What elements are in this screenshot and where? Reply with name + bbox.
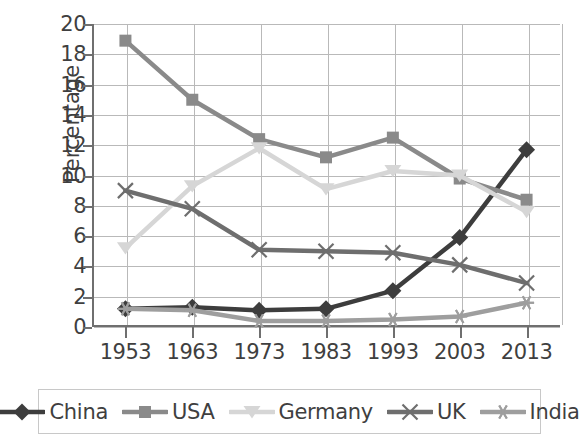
gridline-horizontal — [94, 266, 560, 267]
x-axis-tick-label: 1953 — [100, 340, 151, 364]
y-axis-tick-mark — [83, 54, 92, 56]
diamond-marker-icon — [0, 402, 45, 422]
gridline-horizontal — [94, 54, 560, 55]
legend-item-germany[interactable]: Germany — [229, 400, 373, 424]
y-axis-tick-mark — [83, 115, 92, 117]
legend-item-uk[interactable]: UK — [387, 400, 466, 424]
legend-item-china[interactable]: China — [0, 400, 108, 424]
x-axis-tick-label: 2013 — [501, 340, 552, 364]
gridline-horizontal — [94, 85, 560, 86]
gridline-vertical — [194, 24, 195, 325]
y-axis-tick-mark — [83, 236, 92, 238]
gridline-vertical — [261, 24, 262, 325]
legend-label: China — [49, 400, 108, 424]
gridline-vertical — [127, 24, 128, 325]
x-axis-tick-mark — [125, 327, 127, 338]
x-axis-tick-label: 1983 — [300, 340, 351, 364]
y-axis-tick-mark — [83, 297, 92, 299]
legend-label: India — [530, 400, 579, 424]
legend-item-usa[interactable]: USA — [122, 400, 215, 424]
legend-label: USA — [172, 400, 215, 424]
legend-label: UK — [437, 400, 466, 424]
x-axis-tick-mark — [326, 327, 328, 338]
y-axis-tick-mark — [83, 266, 92, 268]
gridline-horizontal — [94, 297, 560, 298]
x-marker-icon — [387, 402, 433, 422]
x-axis-tick-label: 1963 — [167, 340, 218, 364]
x-axis-tick-label: 1993 — [367, 340, 418, 364]
gridline-horizontal — [94, 24, 560, 25]
plot-right-edge — [562, 24, 563, 325]
y-axis-tick-mark — [83, 24, 92, 26]
x-axis-tick-mark — [527, 327, 529, 338]
square-marker-icon — [122, 402, 168, 422]
gridline-vertical — [529, 24, 530, 325]
chart-legend: ChinaUSAGermanyUKIndia — [38, 389, 541, 434]
y-axis-tick-mark — [83, 206, 92, 208]
plot-area — [92, 24, 560, 327]
y-axis-tick-mark — [83, 85, 92, 87]
gridline-horizontal — [94, 206, 560, 207]
y-axis-tick-mark — [83, 176, 92, 178]
y-axis-tick-mark — [83, 145, 92, 147]
x-axis-tick-mark — [460, 327, 462, 338]
x-axis-tick-mark — [393, 327, 395, 338]
gridline-vertical — [395, 24, 396, 325]
x-axis-tick-mark — [259, 327, 261, 338]
gridline-vertical — [462, 24, 463, 325]
gridline-horizontal — [94, 236, 560, 237]
asterisk-marker-icon — [480, 402, 526, 422]
line-chart: Percentage 02468101214161820 19531963197… — [0, 0, 579, 445]
gridline-horizontal — [94, 176, 560, 177]
x-axis-tick-label: 2003 — [434, 340, 485, 364]
x-axis-tick-label: 1973 — [233, 340, 284, 364]
gridline-horizontal — [94, 145, 560, 146]
legend-item-india[interactable]: India — [480, 400, 579, 424]
y-axis-tick-labels: 02468101214161820 — [0, 0, 86, 445]
gridline-horizontal — [94, 115, 560, 116]
triangle-marker-icon — [229, 402, 275, 422]
x-axis-tick-mark — [192, 327, 194, 338]
gridline-vertical — [328, 24, 329, 325]
y-axis-tick-mark — [83, 327, 92, 329]
legend-label: Germany — [279, 400, 373, 424]
